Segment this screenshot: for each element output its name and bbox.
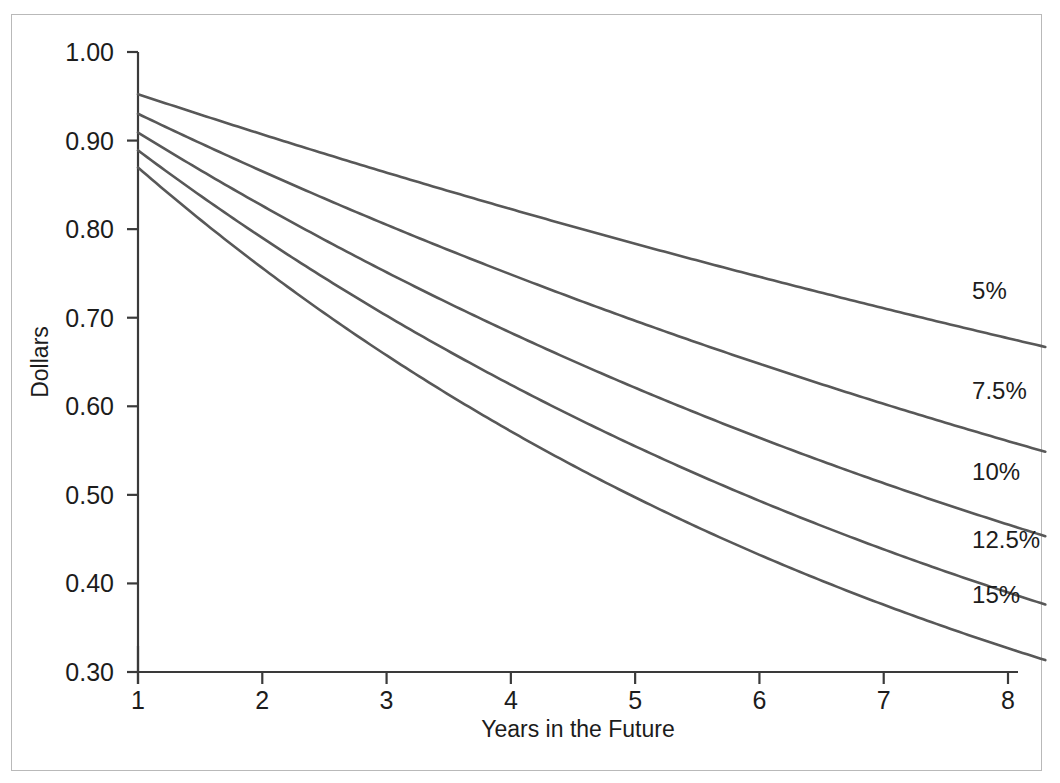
x-axis-title: Years in the Future [481,716,675,742]
series-label-10pct: 10% [972,458,1020,485]
x-tick-label: 5 [628,686,642,714]
y-tick-label: 0.30 [65,658,114,686]
data-curves [138,94,1045,660]
discount-factor-line-chart: 1.000.900.800.700.600.500.400.30 1234567… [0,0,1060,783]
y-tick-label: 1.00 [65,38,114,66]
y-tick-label: 0.40 [65,569,114,597]
x-tick-label: 4 [504,686,518,714]
series-label-12-5pct: 12.5% [972,526,1040,553]
series-labels: 5%7.5%10%12.5%15% [972,277,1040,608]
x-tick-label: 7 [877,686,891,714]
y-tick-label: 0.90 [65,127,114,155]
data-curve-7-5pct [138,114,1045,452]
x-tick-label: 1 [131,686,145,714]
x-tick-label: 8 [1001,686,1015,714]
data-curve-12-5pct [138,150,1045,604]
x-tick-label: 2 [255,686,269,714]
series-label-15pct: 15% [972,581,1020,608]
y-axis-ticks: 1.000.900.800.700.600.500.400.30 [65,38,138,686]
x-axis-ticks: 12345678 [131,646,1015,714]
y-tick-label: 0.80 [65,215,114,243]
y-tick-label: 0.60 [65,392,114,420]
series-label-7-5pct: 7.5% [972,377,1027,404]
x-tick-label: 6 [752,686,766,714]
y-tick-label: 0.50 [65,481,114,509]
data-curve-15pct [138,168,1045,661]
series-label-5pct: 5% [972,277,1007,304]
y-axis-title: Dollars [27,326,53,398]
x-tick-label: 3 [380,686,394,714]
y-tick-label: 0.70 [65,304,114,332]
data-curve-5pct [138,94,1045,347]
figure-container: 1.000.900.800.700.600.500.400.30 1234567… [0,0,1060,783]
